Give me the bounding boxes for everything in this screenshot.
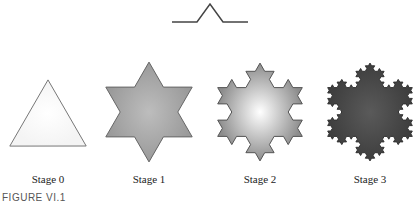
koch-stage-1-shape — [106, 62, 192, 162]
stage-3-label: Stage 3 — [354, 173, 387, 185]
koch-stage-2-shape — [218, 63, 303, 161]
stage-0-label: Stage 0 — [32, 173, 65, 185]
stage-2-label: Stage 2 — [244, 173, 277, 185]
koch-snowflake-figure — [0, 0, 417, 201]
koch-stage-3-shape — [328, 63, 413, 161]
koch-generator-line — [172, 4, 248, 22]
stage-1-label: Stage 1 — [133, 173, 166, 185]
figure-caption: FIGURE VI.1 — [2, 192, 66, 201]
koch-stage-0-shape — [10, 80, 86, 146]
